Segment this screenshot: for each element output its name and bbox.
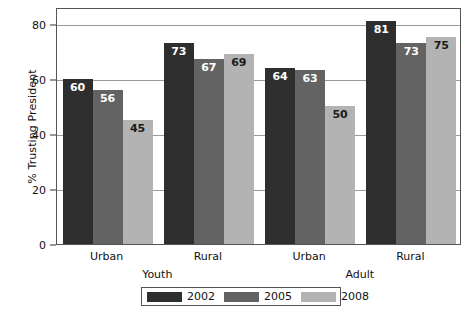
- x-axis-category-label: Urban: [292, 250, 325, 263]
- bar: 63: [295, 70, 325, 244]
- bar: 81: [366, 21, 396, 244]
- bar-value-label: 67: [194, 62, 224, 74]
- bar-chart: % Trusting President 020406080 605645736…: [0, 0, 467, 317]
- bar: 67: [194, 59, 224, 244]
- bar-value-label: 81: [366, 24, 396, 36]
- bar-value-label: 64: [265, 71, 295, 83]
- y-tick-label: 20: [12, 184, 46, 195]
- bar-value-label: 50: [325, 109, 355, 121]
- bar-value-label: 56: [93, 93, 123, 105]
- x-axis-category-label: Urban: [90, 250, 123, 263]
- bar: 75: [426, 37, 456, 244]
- bar: 73: [396, 43, 426, 244]
- bar: 45: [123, 120, 153, 244]
- y-tick-label: 60: [12, 74, 46, 85]
- bar-value-label: 45: [123, 123, 153, 135]
- legend-item: 2008: [301, 291, 369, 302]
- bar-value-label: 73: [164, 46, 194, 58]
- bar-value-label: 63: [295, 73, 325, 85]
- legend-swatch: [147, 292, 182, 302]
- legend-label: 2005: [264, 291, 292, 302]
- gridline: [57, 25, 460, 26]
- bar-value-label: 60: [63, 82, 93, 94]
- legend-swatch: [301, 292, 336, 302]
- bar-value-label: 73: [396, 46, 426, 58]
- bar: 69: [224, 54, 254, 244]
- y-tick-label: 0: [12, 240, 46, 251]
- bar: 73: [164, 43, 194, 244]
- x-axis-category-label: Rural: [194, 250, 222, 263]
- legend-item: 2005: [224, 291, 292, 302]
- bar-value-label: 69: [224, 57, 254, 69]
- bar: 50: [325, 106, 355, 244]
- legend: 200220052008: [141, 287, 341, 306]
- legend-item: 2002: [147, 291, 215, 302]
- y-tick-label: 40: [12, 129, 46, 140]
- bar-value-label: 75: [426, 40, 456, 52]
- bar: 56: [93, 90, 123, 244]
- y-tick-label: 80: [12, 19, 46, 30]
- x-axis-supergroup-label: Youth: [142, 268, 172, 281]
- bar: 64: [265, 68, 295, 244]
- bar: 60: [63, 79, 93, 244]
- legend-label: 2002: [187, 291, 215, 302]
- x-axis-category-label: Rural: [396, 250, 424, 263]
- legend-label: 2008: [341, 291, 369, 302]
- legend-swatch: [224, 292, 259, 302]
- plot-area: 605645736769646350817375: [56, 8, 461, 245]
- x-axis-supergroup-label: Adult: [345, 268, 374, 281]
